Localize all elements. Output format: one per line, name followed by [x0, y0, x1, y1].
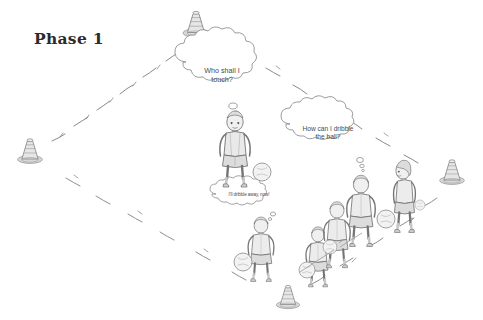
sketch-illustration: [0, 0, 483, 320]
cone-bottom: [276, 285, 299, 308]
ball-row-2: [323, 240, 337, 254]
ball-center: [253, 163, 271, 181]
player-far-right: [394, 160, 416, 232]
thought-bubble-how-can-i-dribble: [281, 96, 364, 172]
player-lower-left: [248, 217, 274, 282]
ball-right: [377, 210, 395, 228]
player-center: [220, 111, 250, 187]
ball-lower-left: [234, 253, 252, 271]
cone-right: [440, 160, 465, 185]
ball-far-right: [415, 200, 425, 210]
ball-row-1: [299, 262, 315, 278]
cone-left: [18, 139, 43, 164]
thought-bubble-who-shall-i-touch: [175, 27, 257, 120]
player-right-tall: [347, 175, 376, 246]
page-title: Phase 1: [34, 29, 104, 48]
diagram-canvas: Phase 1 Who shall I touch? How can I dri…: [0, 0, 483, 320]
